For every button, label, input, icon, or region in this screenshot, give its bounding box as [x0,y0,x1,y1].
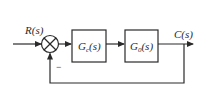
feedback-path [50,44,184,83]
summing-junction [42,36,59,53]
controller-label: Gc(s) [78,40,101,54]
plant-block: G0(s) [125,30,158,62]
controller-block: Gc(s) [72,30,106,62]
block-diagram: R(s) Gc(s) G0(s) C(s) − [0,0,209,93]
feedback-sign: − [56,62,61,72]
output-label: C(s) [174,28,193,41]
input-label: R(s) [24,24,44,37]
plant-label: G0(s) [130,40,153,54]
